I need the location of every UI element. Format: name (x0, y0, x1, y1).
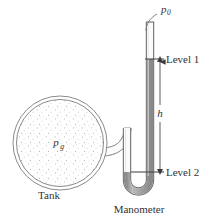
ambient-pressure-subscript: 0 (167, 8, 171, 17)
tank-caption: Tank (38, 189, 60, 201)
gauge-pressure-symbol: p (52, 136, 59, 148)
level-2-label: Level 2 (166, 166, 199, 178)
level-1-label: Level 1 (166, 53, 199, 65)
manometer-caption: Manometer (114, 203, 165, 215)
ambient-pressure-symbol: p (160, 3, 167, 15)
manometer-diagram-canvas: p g Tank p 0 (0, 0, 210, 218)
manometer-figure: p g Tank p 0 (0, 0, 210, 218)
height-symbol: h (157, 107, 163, 119)
gauge-pressure-subscript: g (60, 142, 64, 151)
